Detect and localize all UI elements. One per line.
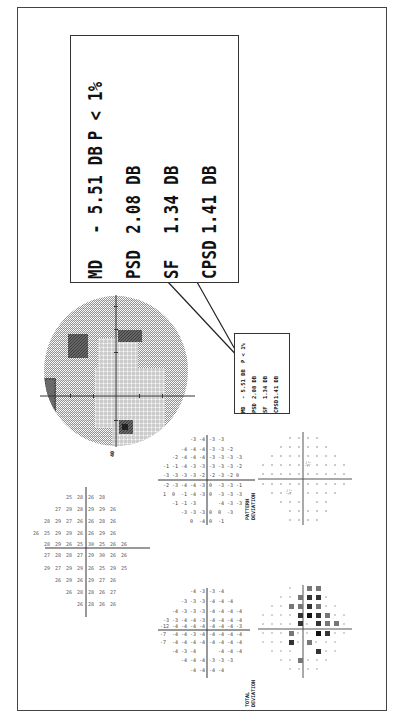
small-psd-label: PSD <box>251 399 257 413</box>
psd-value: 2.08 DB <box>121 228 145 234</box>
sf-row: SF1.34 DB <box>159 165 183 279</box>
global-indices-callout: MD- 5.51 DBP < 1% PSD2.08 DB SF1.34 DB C… <box>70 35 239 283</box>
md-probability: P < 1% <box>83 81 107 140</box>
small-cpsd-row: CPSD1.41 DB <box>273 375 281 412</box>
small-md-label: MD <box>240 399 246 413</box>
sf-value: 1.34 DB <box>159 165 183 233</box>
psd-row: PSD2.08 DB <box>121 228 145 279</box>
md-value: - 5.51 DB <box>83 140 107 234</box>
small-sf-value: 1.34 DB <box>262 375 268 398</box>
sf-label: SF <box>159 234 183 279</box>
small-sf-row: SF1.34 DB <box>262 375 270 412</box>
small-psd-value: 2.08 DB <box>251 375 257 398</box>
cpsd-row: CPSD1.41 DB <box>197 165 221 279</box>
psd-label: PSD <box>121 234 145 279</box>
cpsd-value: 1.41 DB <box>197 165 221 233</box>
small-md-probability: P < 1% <box>240 343 246 363</box>
cpsd-label: CPSD <box>197 234 221 279</box>
md-label: MD <box>83 234 107 279</box>
small-sf-label: SF <box>262 399 268 413</box>
small-md-row: MD- 5.51 DBP < 1% <box>240 343 248 413</box>
md-row: MD- 5.51 DBP < 1% <box>83 81 107 279</box>
small-cpsd-value: 1.41 DB <box>273 375 279 398</box>
global-indices-box: MD- 5.51 DBP < 1% PSD2.08 DB SF1.34 DB C… <box>234 333 290 414</box>
small-psd-row: PSD2.08 DB <box>251 375 259 412</box>
small-md-value: - 5.51 DB <box>240 363 246 399</box>
small-cpsd-label: CPSD <box>273 399 279 413</box>
